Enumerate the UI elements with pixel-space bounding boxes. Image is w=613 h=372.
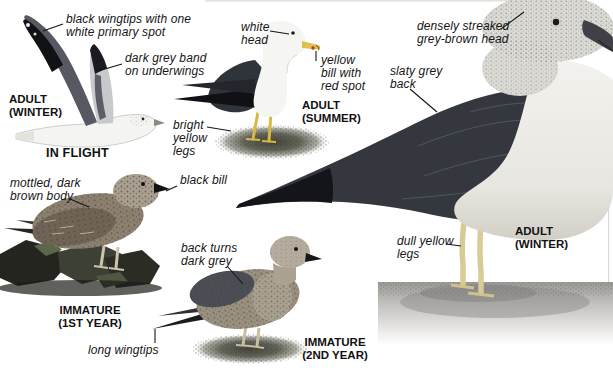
eye xyxy=(294,247,298,251)
annotation-bright-yellow-legs: bright yellow legs xyxy=(173,119,207,158)
bill xyxy=(305,253,322,262)
annotation-dull-yellow-legs: dull yellow legs xyxy=(397,235,453,261)
caption-in-flight: IN FLIGHT xyxy=(46,146,109,160)
annotation-black-bill: black bill xyxy=(180,174,227,187)
annotation-white-head: white head xyxy=(241,21,270,47)
bill xyxy=(154,183,170,193)
annotation-mottled-body: mottled, dark brown body xyxy=(10,177,81,203)
annotation-long-wingtips: long wingtips xyxy=(88,344,159,357)
annotation-underwing-band: dark grey band on underwings xyxy=(125,52,206,78)
stage-label-adult-summer: ADULT (SUMMER) xyxy=(302,99,361,125)
stage-label-immature-2nd-year: IMMATURE (2ND YEAR) xyxy=(298,336,372,362)
leader-line xyxy=(43,24,63,31)
bill-red-spot xyxy=(311,46,314,49)
annotation-black-wingtips: black wingtips with one white primary sp… xyxy=(66,13,191,39)
annotation-streaked-head: densely streaked grey-brown head xyxy=(417,20,509,46)
stage-label-adult-winter: ADULT (WINTER) xyxy=(515,225,568,251)
stage-label-immature-1st-year: IMMATURE (1ST YEAR) xyxy=(47,304,133,330)
bill xyxy=(302,41,320,50)
stage-label-adult-winter-flight: ADULT (WINTER) xyxy=(9,93,62,119)
field-guide-plate: black wingtips with one white primary sp… xyxy=(0,0,613,372)
leader-line xyxy=(410,89,437,112)
white-primary-spot xyxy=(26,23,30,27)
bill xyxy=(154,119,165,126)
wingtip-black xyxy=(236,168,333,208)
annotation-slaty-grey-back: slaty grey back xyxy=(390,65,442,91)
eye xyxy=(141,182,145,186)
eye xyxy=(291,31,295,35)
annotation-yellow-bill: yellow bill with red spot xyxy=(321,54,365,93)
eye xyxy=(142,118,145,121)
leader-line xyxy=(207,127,231,131)
eye xyxy=(553,19,559,25)
annotation-back-turns-dark-grey: back turns dark grey xyxy=(181,242,237,268)
